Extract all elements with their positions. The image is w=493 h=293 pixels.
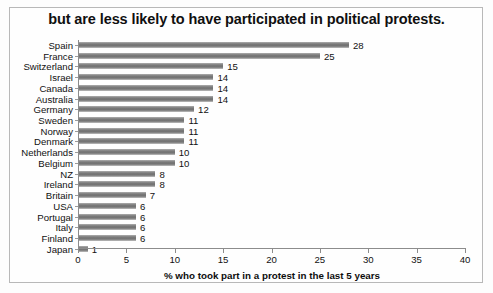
x-axis-tick-label: 35 — [402, 254, 432, 265]
bar-value-label: 11 — [188, 115, 198, 126]
bar — [78, 117, 184, 123]
y-axis-line — [78, 40, 79, 249]
bar — [78, 63, 223, 69]
bar-value-label: 8 — [159, 169, 164, 180]
category-label: Sweden — [38, 115, 73, 126]
bar — [78, 235, 136, 241]
bar — [78, 192, 146, 198]
bar-value-label: 6 — [140, 233, 145, 244]
category-label: Belgium — [38, 158, 73, 169]
bar — [78, 128, 184, 134]
x-axis-tick-label: 0 — [63, 254, 93, 265]
bar — [78, 74, 213, 80]
x-axis-tick-label: 25 — [305, 254, 335, 265]
x-axis-tick — [78, 249, 79, 253]
bar — [78, 85, 213, 91]
x-axis-tick-label: 30 — [353, 254, 383, 265]
bar-value-label: 10 — [179, 158, 190, 169]
category-label: USA — [53, 201, 73, 212]
category-label: Norway — [40, 126, 73, 137]
x-axis-tick — [272, 249, 273, 253]
bar-value-label: 11 — [188, 126, 198, 137]
x-axis-tick-label: 20 — [257, 254, 287, 265]
x-axis-tick — [417, 249, 418, 253]
bar — [78, 171, 155, 177]
bar — [78, 53, 320, 59]
x-axis-tick-label: 15 — [208, 254, 238, 265]
x-axis-tick — [126, 249, 127, 253]
category-label: France — [43, 51, 73, 62]
bar — [78, 224, 136, 230]
category-label: Australia — [36, 94, 73, 105]
bar — [78, 149, 175, 155]
bar-value-label: 14 — [217, 94, 228, 105]
bar-value-label: 15 — [227, 61, 238, 72]
x-axis-tick-label: 40 — [450, 254, 480, 265]
bar-value-label: 7 — [150, 190, 155, 201]
bar — [78, 160, 175, 166]
bar-value-label: 8 — [159, 179, 164, 190]
x-axis-tick — [368, 249, 369, 253]
chart-title: but are less likely to have participated… — [0, 11, 493, 27]
category-label: Switzerland — [23, 61, 73, 72]
category-label: Canada — [39, 83, 73, 94]
bar-value-label: 6 — [140, 201, 145, 212]
category-label: Finland — [42, 233, 73, 244]
x-axis-tick — [465, 249, 466, 253]
category-label: Netherlands — [21, 147, 73, 158]
category-label: Ireland — [44, 179, 73, 190]
plot-area: Spain28France25Switzerland15Israel14Cana… — [78, 40, 465, 248]
bar-value-label: 12 — [198, 104, 209, 115]
bar — [78, 203, 136, 209]
bar-value-label: 6 — [140, 212, 145, 223]
bar-value-label: 10 — [179, 147, 190, 158]
bar-value-label: 6 — [140, 222, 145, 233]
x-axis-tick — [223, 249, 224, 253]
x-axis-tick-label: 10 — [160, 254, 190, 265]
category-label: Italy — [55, 222, 73, 233]
category-label: Germany — [34, 104, 73, 115]
bar — [78, 96, 213, 102]
x-axis-tick — [320, 249, 321, 253]
bar-value-label: 11 — [188, 136, 198, 147]
category-label: Israel — [50, 72, 73, 83]
x-axis-title: % who took part in a protest in the last… — [78, 270, 466, 281]
bar — [78, 106, 194, 112]
bar — [78, 138, 184, 144]
bar — [78, 42, 349, 48]
chart-container: but are less likely to have participated… — [0, 0, 493, 293]
bar — [78, 214, 136, 220]
bar — [78, 181, 155, 187]
category-label: Denmark — [34, 136, 73, 147]
bar-value-label: 14 — [217, 83, 228, 94]
bar-value-label: 25 — [324, 51, 335, 62]
category-label: Spain — [48, 40, 73, 51]
x-axis-tick-label: 5 — [111, 254, 141, 265]
category-label: Britain — [46, 190, 73, 201]
category-label: Portugal — [37, 212, 73, 223]
bar-value-label: 28 — [353, 40, 364, 51]
category-label: NZ — [60, 169, 73, 180]
x-axis-tick — [175, 249, 176, 253]
bar-value-label: 14 — [217, 72, 228, 83]
